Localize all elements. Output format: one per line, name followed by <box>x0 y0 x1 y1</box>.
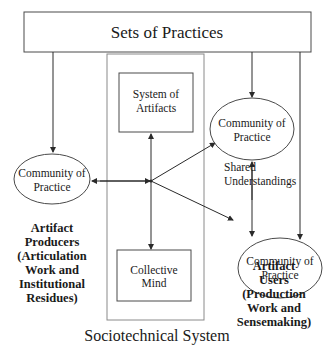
arrow-hub-to-bottom-right-community <box>151 181 233 220</box>
shared-understandings-line1: Shared <box>224 161 256 173</box>
users-line1: Artifact <box>253 259 296 273</box>
community-left-line1: Community of <box>18 167 86 180</box>
users-line2: Users <box>259 273 289 287</box>
arrow-hub-to-top-right-community <box>151 143 215 181</box>
artifact-producers-label: Artifact Producers (Articulation Work an… <box>17 221 86 305</box>
collective-mind-line2: Mind <box>142 277 167 289</box>
community-left: Community of Practice <box>14 154 90 204</box>
sociotechnical-diagram: Sets of Practices System of Artifacts Co… <box>0 0 327 355</box>
shared-understandings-line2: Understandings <box>224 175 297 188</box>
producers-line4: Work and <box>25 263 79 277</box>
sociotechnical-system-caption: Sociotechnical System <box>84 327 230 345</box>
community-left-line2: Practice <box>33 181 70 193</box>
shared-understandings-label: Shared Understandings <box>224 161 297 188</box>
producers-line2: Producers <box>25 235 80 249</box>
producers-line5: Institutional <box>19 277 86 291</box>
diagram-canvas: Sets of Practices System of Artifacts Co… <box>0 0 327 355</box>
community-top-right-line1: Community of <box>218 117 286 130</box>
collective-mind-line1: Collective <box>130 264 177 276</box>
system-of-artifacts-line1: System of <box>133 88 179 101</box>
users-line3: (Production <box>242 287 306 301</box>
collective-mind-box: Collective Mind <box>117 250 191 301</box>
community-top-right: Community of Practice <box>210 98 294 160</box>
producers-line1: Artifact <box>31 221 74 235</box>
hub-point <box>149 179 152 182</box>
system-of-artifacts-line2: Artifacts <box>136 102 177 114</box>
community-top-right-line2: Practice <box>233 131 270 143</box>
producers-line3: (Articulation <box>17 249 86 263</box>
users-line4: Work and <box>247 301 301 315</box>
system-of-artifacts-box: System of Artifacts <box>119 73 193 132</box>
sets-of-practices-label: Sets of Practices <box>111 23 223 42</box>
sets-of-practices-box: Sets of Practices <box>24 12 311 52</box>
users-line5: Sensemaking) <box>237 315 311 329</box>
producers-line6: Residues) <box>26 291 77 305</box>
